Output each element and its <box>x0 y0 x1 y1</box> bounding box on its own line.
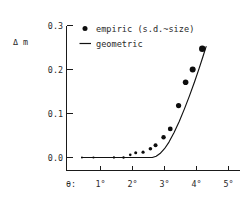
data-point <box>154 143 158 147</box>
data-point <box>149 147 153 151</box>
geometric-curve <box>82 47 206 158</box>
data-point <box>141 151 144 154</box>
chart-plot-area: 0.3 0.2 0.1 0.0 Δ m 1° 2° 3° 4° 5° θ: <box>0 0 247 201</box>
data-point <box>199 46 205 52</box>
y-axis-title: Δ m <box>13 37 28 47</box>
y-tick-label-1: 0.1 <box>48 109 63 119</box>
data-point <box>183 79 189 85</box>
data-point <box>176 103 181 108</box>
chart-figure: 0.3 0.2 0.1 0.0 Δ m 1° 2° 3° 4° 5° θ: <box>0 0 247 201</box>
data-point <box>92 156 94 158</box>
x-tick-label-0: 1° <box>95 179 105 189</box>
y-tick-label-2: 0.2 <box>48 65 63 75</box>
x-tick-label-3: 4° <box>191 179 201 189</box>
data-point <box>161 135 165 139</box>
x-tick-label-2: 3° <box>159 179 169 189</box>
x-axis-title: θ: <box>66 179 76 189</box>
data-point <box>134 151 137 154</box>
data-point <box>190 67 196 73</box>
y-axis-ticks <box>67 26 73 158</box>
data-point <box>129 154 132 157</box>
x-tick-label-4: 5° <box>223 179 233 189</box>
x-axis-ticks <box>101 166 229 171</box>
x-tick-label-1: 2° <box>127 179 137 189</box>
data-point <box>113 156 115 158</box>
legend-label-empiric: empiric (s.d.~size) <box>96 24 194 34</box>
y-tick-label-0: 0.0 <box>48 153 63 163</box>
y-axis-tick-labels: 0.3 0.2 0.1 0.0 <box>48 21 63 163</box>
legend-label-geometric: geometric <box>96 39 143 49</box>
data-point <box>122 156 124 158</box>
data-point <box>168 126 173 131</box>
y-tick-label-3: 0.3 <box>48 21 63 31</box>
legend-dot-icon <box>83 26 88 31</box>
data-point <box>81 157 83 159</box>
chart-legend: empiric (s.d.~size) geometric <box>80 24 195 49</box>
x-axis-tick-labels: 1° 2° 3° 4° 5° <box>95 179 233 189</box>
